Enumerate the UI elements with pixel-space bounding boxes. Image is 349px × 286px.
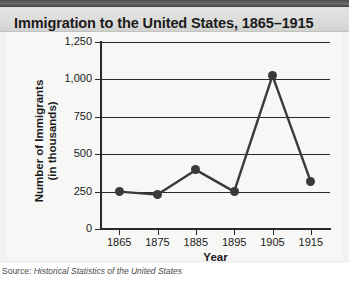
y-tick-label-box: 750 — [48, 110, 92, 122]
data-point-1865 — [115, 187, 124, 196]
y-tick-label-0: 0 — [48, 222, 92, 234]
x-tick-1895 — [234, 230, 235, 235]
y-tick-label-box: 0 — [48, 222, 92, 234]
plot-area — [100, 42, 330, 229]
x-tick-label-1875: 1875 — [138, 236, 178, 248]
x-tick-1885 — [196, 230, 197, 235]
y-tick-label-500: 500 — [48, 147, 92, 159]
x-tick-label-1905: 1905 — [253, 236, 293, 248]
source-label: Source: — [2, 266, 31, 276]
y-tick-label-750: 750 — [48, 110, 92, 122]
series-line-immigration — [100, 42, 330, 229]
y-tick-label-box: 500 — [48, 147, 92, 159]
y-axis-title: Number of Immigrants (in thousands) — [14, 40, 48, 230]
y-tick-label-1000: 1,000 — [48, 72, 92, 84]
chart-title: Immigration to the United States, 1865–1… — [14, 15, 314, 31]
x-tick-label-1885: 1885 — [176, 236, 216, 248]
source-text: Historical Statistics of the United Stat… — [34, 266, 182, 276]
series-polyline — [119, 76, 311, 195]
x-tick-label-1895: 1895 — [214, 236, 254, 248]
x-axis-title: Year — [100, 251, 331, 263]
x-tick-label-1915: 1915 — [291, 236, 331, 248]
x-tick-1865 — [119, 230, 120, 235]
top-accent-bar — [0, 0, 349, 7]
y-tick-label-1250: 1,250 — [48, 35, 92, 47]
figure-container: Immigration to the United States, 1865–1… — [0, 0, 349, 263]
y-axis-title-line1: Number of Immigrants — [33, 80, 45, 203]
y-tick-label-box: 1,000 — [48, 72, 92, 84]
source-caption: Source: Historical Statistics of the Uni… — [2, 266, 347, 276]
data-point-1875 — [153, 190, 162, 199]
x-tick-label-1865: 1865 — [99, 236, 139, 248]
y-tick-label-box: 1,250 — [48, 35, 92, 47]
x-tick-1915 — [311, 230, 312, 235]
x-tick-1905 — [273, 230, 274, 235]
data-point-1895 — [230, 187, 239, 196]
y-tick-label-box: 250 — [48, 185, 92, 197]
x-tick-1875 — [158, 230, 159, 235]
y-tick-label-250: 250 — [48, 185, 92, 197]
title-band: Immigration to the United States, 1865–1… — [0, 7, 349, 32]
